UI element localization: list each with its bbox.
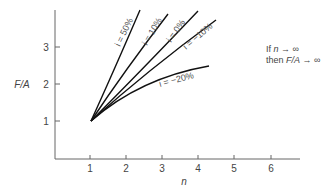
chart: 1 2 3 4 5 6 1 2 3 F/A n i = 50% i = 10% …: [0, 0, 330, 194]
y-tick-label: 1: [43, 116, 49, 127]
x-tick-label: 2: [123, 163, 129, 174]
x-axis-label: n: [181, 176, 187, 187]
x-tick-label: 5: [231, 163, 237, 174]
x-tick-label: 3: [159, 163, 165, 174]
annotation-line-1: If n → ∞: [266, 44, 320, 55]
y-tick-label: 3: [43, 42, 49, 53]
annotation-line-2: then F/A → ∞: [266, 55, 320, 66]
y-ticks: [55, 47, 60, 121]
x-tick-label: 1: [87, 163, 93, 174]
curve-label-neg20: i = −20%: [158, 70, 195, 89]
limit-annotation: If n → ∞ then F/A → ∞: [266, 44, 320, 66]
x-ticks: [90, 155, 271, 159]
y-axis-label: F/A: [14, 79, 30, 90]
x-tick-label: 6: [268, 163, 274, 174]
y-tick-label: 2: [43, 79, 49, 90]
curve-label-neg10: i = −10%: [181, 21, 215, 51]
curve-label-50: i = 50%: [113, 16, 135, 48]
curve-label-10: i = 10%: [140, 16, 164, 47]
curve-i-50: [91, 10, 140, 121]
x-tick-label: 4: [195, 163, 201, 174]
